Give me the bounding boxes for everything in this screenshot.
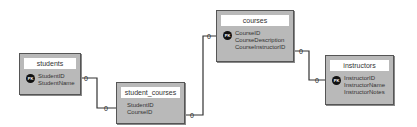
table-title: courses (221, 15, 289, 26)
field-studentname: StudentName (38, 80, 75, 87)
field-instructorid: InstructorID (344, 75, 385, 82)
cardinality-zero: 0 (299, 48, 303, 55)
field-courseid: CourseID (127, 109, 154, 116)
table-students[interactable]: students PK StudentID StudentName (19, 53, 81, 95)
field-instructorname: InstructorName (344, 82, 385, 89)
table-title: student_courses (121, 87, 180, 98)
table-student-courses[interactable]: student_courses StudentID CourseID (116, 82, 185, 124)
cardinality-zero: 0 (315, 77, 319, 84)
cardinality-zero: 0 (104, 105, 108, 112)
field-coursedescription: CourseDescription (235, 37, 285, 44)
field-courseid: CourseID (235, 30, 285, 37)
cardinality-zero: 0 (207, 33, 211, 40)
table-instructors[interactable]: instructors PK InstructorID InstructorNa… (325, 55, 394, 105)
field-studentid: StudentID (127, 102, 154, 109)
primary-key-icon: PK (26, 74, 35, 83)
table-courses[interactable]: courses PK CourseID CourseDescription Co… (216, 10, 294, 62)
primary-key-icon: PK (223, 31, 232, 40)
table-title: instructors (330, 60, 389, 71)
table-title: students (24, 58, 76, 69)
primary-key-icon: PK (332, 76, 341, 85)
cardinality-zero: 0 (84, 75, 88, 82)
field-instructornotes: InstructorNotes (344, 89, 385, 96)
field-courseinstructorid: CourseInstructorID (235, 44, 285, 51)
cardinality-zero: 0 (190, 112, 194, 119)
field-studentid: StudentID (38, 73, 75, 80)
